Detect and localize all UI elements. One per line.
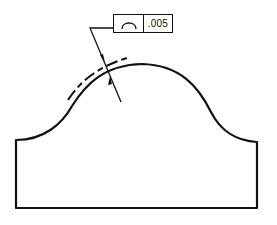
leader-line	[90, 28, 121, 102]
arrowhead-outer	[100, 54, 105, 63]
feature-control-frame: .005	[113, 14, 173, 33]
part-outline	[16, 64, 257, 208]
drawing-canvas	[0, 0, 277, 225]
profile-of-line-icon	[114, 15, 144, 32]
tolerance-zone-boundary	[68, 57, 130, 100]
tolerance-value: .005	[144, 15, 172, 32]
